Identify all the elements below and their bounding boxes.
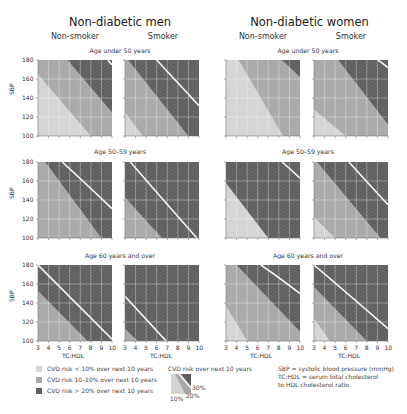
age-title-row2-men: Age 50–59 years — [70, 148, 170, 155]
y-tick-label: 140 — [22, 299, 33, 306]
y-tick-label: 160 — [22, 75, 33, 82]
x-tick-label: 7 — [354, 344, 358, 351]
x-tick-label: 6 — [344, 344, 348, 351]
women-non-smoker-label: Non-smoker — [228, 32, 298, 41]
age-title-row1-men: Age under 50 years — [70, 47, 170, 54]
risk-panel-r1-c3 — [226, 60, 300, 136]
x-tick-label: 4 — [47, 344, 51, 351]
note-tchdl: TC:HDL = serum total cholesterol — [278, 373, 378, 380]
age-title-row1-women: Age under 50 years — [258, 47, 358, 54]
y-axis-label-row2: SBP — [8, 187, 15, 199]
x-tick-label: 9 — [99, 344, 103, 351]
x-tick-label: 8 — [365, 344, 369, 351]
risk-panel-r1-c4 — [314, 60, 388, 136]
legend-label-high: CVD risk > 20% over next 10 years — [47, 387, 153, 394]
y-tick-label: 120 — [22, 113, 33, 120]
y-tick-label: 160 — [22, 280, 33, 287]
y-tick-label: 140 — [22, 196, 33, 203]
y-tick-label: 160 — [22, 177, 33, 184]
y-tick-label: 180 — [22, 56, 33, 63]
x-tick-label: 7 — [266, 344, 270, 351]
x-axis-label-3: TC:HDL — [250, 352, 272, 359]
risk-key-icon — [171, 374, 191, 394]
risk-panel-r1-c2 — [125, 60, 199, 136]
risk-panel-r2-c1 — [38, 162, 112, 238]
x-axis-label-1: TC:HDL — [62, 352, 84, 359]
x-tick-label: 10 — [109, 344, 117, 351]
risk-key-20: 20% — [186, 392, 199, 399]
y-tick-label: 120 — [22, 318, 33, 325]
risk-panel-r3-c2 — [125, 265, 199, 341]
x-tick-label: 9 — [186, 344, 190, 351]
men-smoker-label: Smoker — [128, 32, 198, 41]
x-tick-label: 7 — [78, 344, 82, 351]
legend-swatch-low — [36, 366, 42, 372]
y-tick-label: 120 — [22, 215, 33, 222]
y-axis-label-row3: SBP — [8, 290, 15, 302]
x-tick-label: 4 — [134, 344, 138, 351]
men-non-smoker-label: Non-smoker — [40, 32, 110, 41]
x-tick-label: 3 — [312, 344, 316, 351]
x-axis-label-2: TC:HDL — [150, 352, 172, 359]
x-tick-label: 3 — [36, 344, 40, 351]
legend-label-low: CVD risk < 10% over next 10 years — [47, 365, 153, 372]
risk-panel-r2-c4 — [314, 162, 388, 238]
x-tick-label: 8 — [176, 344, 180, 351]
x-tick-label: 4 — [235, 344, 239, 351]
x-tick-label: 9 — [375, 344, 379, 351]
legend-swatch-high — [36, 388, 42, 394]
y-tick-label: 100 — [22, 337, 33, 344]
x-tick-label: 10 — [196, 344, 204, 351]
y-tick-label: 100 — [22, 234, 33, 241]
legend-label-medium: CVD risk 10–20% over next 10 years — [47, 376, 157, 383]
risk-key-30: 30% — [192, 384, 205, 391]
legend-swatch-medium — [36, 377, 42, 383]
x-tick-label: 7 — [165, 344, 169, 351]
x-tick-label: 5 — [57, 344, 61, 351]
risk-panel-r3-c1 — [38, 265, 112, 341]
x-tick-label: 8 — [89, 344, 93, 351]
x-tick-label: 8 — [277, 344, 281, 351]
note-sbp: SBP = systolic blood pressure (mmHg) — [278, 365, 394, 372]
risk-panel-r1-c1 — [38, 60, 112, 136]
risk-panel-r2-c2 — [125, 162, 199, 238]
x-tick-label: 5 — [245, 344, 249, 351]
y-tick-label: 140 — [22, 94, 33, 101]
x-tick-label: 9 — [287, 344, 291, 351]
men-title: Non-diabetic men — [45, 15, 195, 29]
x-tick-label: 10 — [385, 344, 393, 351]
x-tick-label: 3 — [224, 344, 228, 351]
x-tick-label: 6 — [68, 344, 72, 351]
age-title-row3-men: Age 60 years and over — [70, 252, 170, 259]
women-smoker-label: Smoker — [316, 32, 386, 41]
risk-panel-r3-c4 — [314, 265, 388, 341]
risk-key-10: 10% — [170, 395, 183, 402]
women-title: Non-diabetic women — [232, 15, 387, 29]
x-tick-label: 4 — [323, 344, 327, 351]
risk-panel-r2-c3 — [226, 162, 300, 238]
x-tick-label: 10 — [297, 344, 305, 351]
y-axis-label-row1: SBP — [8, 83, 15, 95]
x-tick-label: 3 — [123, 344, 127, 351]
x-tick-label: 5 — [144, 344, 148, 351]
risk-key-title: CVD risk over next 10 years — [168, 365, 252, 372]
y-tick-label: 100 — [22, 132, 33, 139]
x-tick-label: 6 — [256, 344, 260, 351]
risk-panel-r3-c3 — [226, 265, 300, 341]
note-tchdl-2: to HDL cholesterol ratio — [278, 381, 349, 388]
x-axis-label-4: TC:HDL — [338, 352, 360, 359]
y-tick-label: 180 — [22, 158, 33, 165]
age-title-row3-women: Age 60 years and over — [258, 252, 358, 259]
y-tick-label: 180 — [22, 261, 33, 268]
x-tick-label: 5 — [333, 344, 337, 351]
x-tick-label: 6 — [155, 344, 159, 351]
age-title-row2-women: Age 50–59 years — [258, 148, 358, 155]
